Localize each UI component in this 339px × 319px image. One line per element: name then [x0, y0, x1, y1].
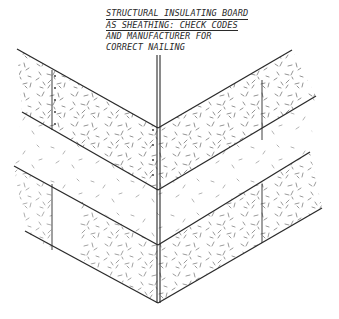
- note-line-2: AS SHEATHING: CHECK CODES: [106, 20, 238, 32]
- sheathing-note: STRUCTURAL INSULATING BOARD AS SHEATHING…: [106, 8, 248, 52]
- note-line-4: CORRECT NAILING: [106, 42, 185, 52]
- note-line-1: STRUCTURAL INSULATING BOARD: [106, 8, 248, 20]
- note-line-3: AND MANUFACTURER FOR: [106, 31, 211, 41]
- right-face-panels: [158, 50, 322, 303]
